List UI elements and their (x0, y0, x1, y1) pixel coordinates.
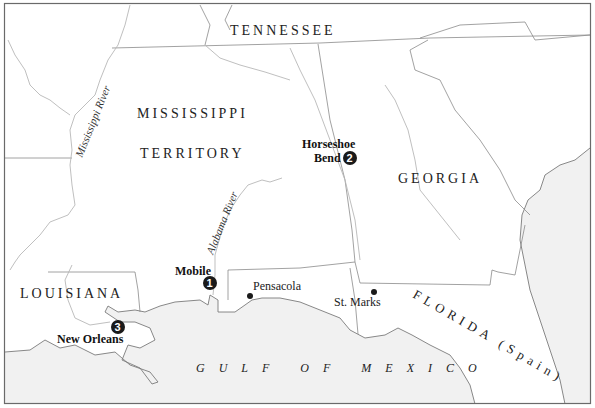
label-new-orleans: New Orleans (57, 332, 124, 346)
battle-marker-2[interactable]: 2 (343, 151, 357, 165)
label-tennessee: TENNESSEE (230, 23, 336, 38)
label-mississippi: MISSISSIPPI (137, 106, 248, 121)
label-pensacola: Pensacola (253, 279, 302, 293)
label-bend: Bend (314, 151, 341, 165)
battle-3-number: 3 (115, 321, 121, 333)
label-alabama-river: Alabama River (203, 189, 240, 257)
arkansas-river-line (8, 40, 70, 115)
georgia-river-line (385, 85, 460, 240)
label-mobile: Mobile (175, 264, 212, 278)
gulf-of-mexico-water (5, 295, 475, 404)
alabama-river-line (213, 178, 282, 295)
battle-2-number: 2 (347, 152, 353, 164)
label-georgia: GEORGIA (398, 171, 482, 186)
pensacola-dot (247, 293, 253, 299)
battle-1-number: 1 (207, 277, 213, 289)
tennessee-south-border (112, 35, 590, 48)
label-territory: TERRITORY (140, 146, 245, 161)
map-canvas: TENNESSEE MISSISSIPPI TERRITORY GEORGIA … (0, 0, 595, 408)
battle-marker-3[interactable]: 3 (111, 320, 125, 334)
label-louisiana: LOUISIANA (20, 286, 123, 301)
tennessee-river-line (205, 45, 290, 80)
tennessee-north-border (200, 5, 232, 45)
mississippi-river-line (10, 5, 130, 325)
label-st-marks: St. Marks (334, 295, 381, 309)
label-horseshoe: Horseshoe (302, 137, 356, 151)
battle-marker-1[interactable]: 1 (203, 276, 217, 290)
label-gulf-of-mexico: GULF OF MEXICO (196, 361, 491, 375)
label-mississippi-river: Mississippi River (72, 83, 112, 160)
